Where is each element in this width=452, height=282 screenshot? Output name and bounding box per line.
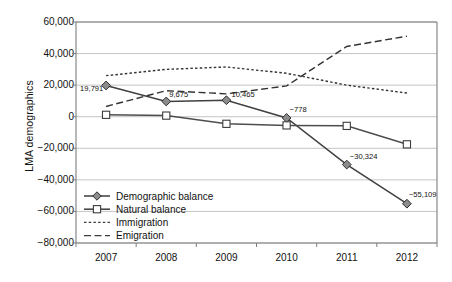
x-axis-tick-label: 2010 [262, 253, 312, 263]
data-label: −55,109 [409, 190, 437, 199]
data-point-marker-square [102, 111, 109, 118]
legend-label-3[interactable]: Emigration [116, 230, 164, 241]
data-point-marker-diamond [403, 199, 412, 208]
data-label: 19,791 [80, 84, 103, 93]
data-label: 9,675 [169, 90, 188, 99]
series-line-1 [106, 115, 407, 145]
chart-container: LMA demographics 60,00040,00020,0000−20,… [0, 0, 452, 282]
legend-marker-diamond-0 [93, 192, 101, 200]
plot-area: 19,7919,67510,465−778−30,324−55,109Demog… [0, 0, 452, 282]
data-label: 10,465 [231, 90, 254, 99]
data-point-marker-square [163, 112, 170, 119]
data-point-marker-square [223, 120, 230, 127]
data-point-marker-square [403, 141, 410, 148]
legend-label-0[interactable]: Demographic balance [116, 191, 214, 202]
legend-label-1[interactable]: Natural balance [116, 204, 186, 215]
series-line-0 [106, 85, 407, 203]
series-line-3 [106, 36, 407, 106]
x-axis-tick-label: 2012 [382, 253, 432, 263]
x-axis-tick-label: 2011 [322, 253, 372, 263]
series-line-2 [106, 67, 407, 93]
x-axis-tick-label: 2007 [81, 253, 131, 263]
x-axis-tick-label: 2009 [201, 253, 251, 263]
data-point-marker-square [343, 122, 350, 129]
legend-label-2[interactable]: Immigration [116, 217, 168, 228]
data-label: −30,324 [350, 152, 378, 161]
data-point-marker-square [283, 122, 290, 129]
data-point-marker-diamond [222, 96, 231, 105]
legend-marker-square-1 [93, 206, 100, 213]
x-axis-tick-label: 2008 [141, 253, 191, 263]
data-label: −778 [290, 105, 307, 114]
